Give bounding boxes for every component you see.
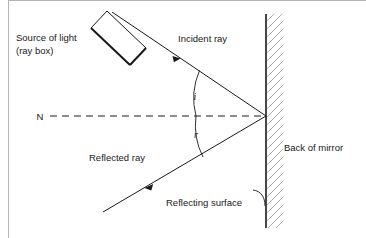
source-of-light-label-line2: (ray box) [16,45,53,56]
incident-ray [112,12,266,116]
back-of-mirror-label: Back of mirror [284,142,343,153]
ray-box [91,11,146,65]
incident-ray-line [112,12,266,116]
incident-ray-label: Incident ray [178,33,227,44]
reflecting-surface-label: Reflecting surface [166,197,242,208]
reflecting-surface-leader [253,190,265,206]
angle-of-incidence-label: i [194,91,197,102]
angle-of-reflection-label: r [194,129,198,140]
mirror-hatching [266,2,286,238]
mirror [266,2,286,238]
source-of-light-label-line1: Source of light [16,32,77,43]
reflected-ray-label: Reflected ray [89,152,145,163]
reflection-diagram: N i r Source of light (ray box) Incident… [0,0,366,238]
normal-label: N [37,111,44,122]
normal-line-group: N [37,111,266,122]
angle-arcs: i r [194,71,203,158]
diagram-canvas: N i r Source of light (ray box) Incident… [0,0,366,238]
